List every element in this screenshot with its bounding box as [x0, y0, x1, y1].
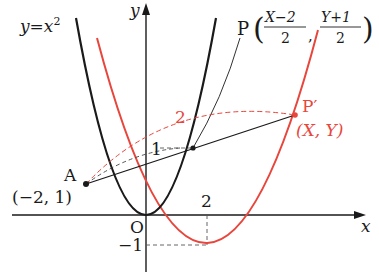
point-p-name: P — [237, 18, 249, 39]
point-p-prime-coords: (X, Y) — [296, 120, 343, 140]
curve-label: y=x2 — [19, 15, 60, 36]
x-axis — [12, 211, 366, 219]
p-y-denominator: 2 — [336, 30, 345, 46]
left-paren: ( — [253, 11, 265, 46]
p-x-denominator: 2 — [281, 30, 290, 46]
point-p-dot — [190, 145, 195, 150]
y-axis-label: y — [129, 0, 140, 20]
y-axis-arrow-icon — [142, 3, 150, 15]
p-comma: , — [308, 27, 313, 45]
parabola-transformation-diagram: y=x2 y x O 2 −1 A (−2, 1) 1 2 P ( X−2 2 … — [0, 0, 379, 277]
ratio-label-2: 2 — [175, 107, 186, 127]
p-y-numerator: Y+1 — [321, 9, 351, 25]
point-p-prime-name: P′ — [302, 96, 317, 116]
point-a-coords: (−2, 1) — [12, 187, 72, 207]
origin-label: O — [130, 217, 144, 237]
x-axis-label: x — [361, 216, 371, 236]
right-paren: ) — [362, 11, 374, 46]
point-p-label: P ( X−2 2 , Y+1 2 ) — [237, 9, 374, 46]
ratio-label-1: 1 — [151, 139, 162, 159]
point-a-name: A — [63, 165, 77, 185]
segment-a-p-prime — [86, 115, 295, 184]
point-p-prime-dot — [292, 112, 298, 118]
point-a-dot — [83, 181, 89, 187]
p-x-numerator: X−2 — [264, 9, 296, 25]
tick-label-y-neg1: −1 — [118, 235, 143, 255]
tick-label-x-2: 2 — [201, 191, 212, 211]
